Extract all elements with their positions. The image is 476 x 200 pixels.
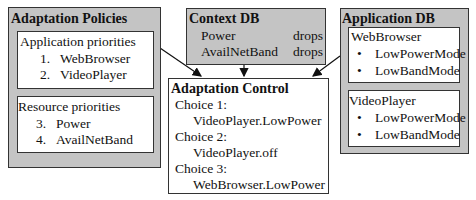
num: 4. (36, 132, 56, 148)
choice-value: VideoPlayer.LowPower (193, 113, 322, 129)
num: 2. (40, 67, 60, 83)
application-priorities-box: Application priorities 1.WebBrowser 2.Vi… (17, 31, 154, 89)
bullet-icon: • (357, 46, 375, 62)
mode: LowBandMode (375, 63, 460, 78)
panel-title: Application DB (342, 11, 435, 27)
adaptation-control-box: Adaptation Control Choice 1: VideoPlayer… (168, 78, 329, 194)
app-name: WebBrowser (351, 29, 421, 45)
app-box-videoplayer: VideoPlayer •LowPowerMode •LowBandMode (348, 90, 460, 147)
panel-title: Context DB (189, 11, 259, 27)
state: drops (293, 44, 323, 60)
resource-priorities-box: Resource priorities 3.Power 4.AvailNetBa… (17, 96, 154, 153)
panel-title: Adaptation Policies (11, 11, 127, 27)
bullet-icon: • (357, 127, 375, 143)
mode-item: •LowPowerMode (357, 110, 466, 126)
mode: LowPowerMode (375, 110, 466, 125)
state: drops (293, 28, 323, 44)
context-row: Powerdrops (201, 28, 323, 44)
adaptation-policies-panel: Adaptation Policies Application prioriti… (8, 7, 161, 168)
num: 1. (40, 51, 60, 67)
box-title: Adaptation Control (171, 81, 289, 97)
choice-value: VideoPlayer.off (193, 145, 278, 161)
label: AvailNetBand (56, 132, 133, 147)
app-name: VideoPlayer (349, 93, 416, 109)
label: Power (56, 116, 91, 131)
heading: Application priorities (20, 34, 136, 50)
choice-label: Choice 1: (175, 97, 227, 113)
name: AvailNetBand (201, 44, 278, 59)
bullet-icon: • (357, 110, 375, 126)
choice-value: WebBrowser.LowPower (193, 177, 325, 193)
list-item: 1.WebBrowser (40, 51, 130, 67)
list-item: 4.AvailNetBand (36, 132, 133, 148)
mode: LowPowerMode (375, 46, 466, 61)
mode: LowBandMode (375, 127, 460, 142)
name: Power (201, 28, 236, 43)
bullet-icon: • (357, 63, 375, 79)
choice-label: Choice 3: (175, 161, 227, 177)
mode-item: •LowPowerMode (357, 46, 466, 62)
application-db-panel: Application DB WebBrowser •LowPowerMode … (340, 8, 469, 154)
list-item: 2.VideoPlayer (40, 67, 127, 83)
choice-label: Choice 2: (175, 129, 227, 145)
mode-item: •LowBandMode (357, 127, 460, 143)
mode-item: •LowBandMode (357, 63, 460, 79)
label: VideoPlayer (60, 67, 127, 82)
app-box-webbrowser: WebBrowser •LowPowerMode •LowBandMode (348, 27, 460, 83)
list-item: 3.Power (36, 116, 91, 132)
label: WebBrowser (60, 51, 130, 66)
heading: Resource priorities (18, 99, 120, 115)
num: 3. (36, 116, 56, 132)
context-db-panel: Context DB Powerdrops AvailNetBanddrops (186, 8, 326, 65)
context-row: AvailNetBanddrops (201, 44, 323, 60)
